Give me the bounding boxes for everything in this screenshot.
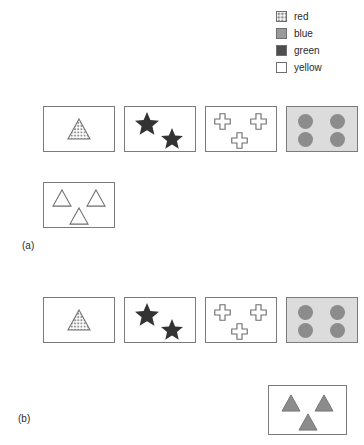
circle-blue-icon xyxy=(298,114,313,129)
green-swatch-solid-icon xyxy=(276,45,287,56)
triangle-yellow-icon xyxy=(86,189,106,207)
cross-yellow-icon xyxy=(231,132,248,149)
triangle-red-icon xyxy=(67,309,91,331)
color-legend: red blue green yellow xyxy=(276,9,364,77)
box-a-4 xyxy=(286,106,358,152)
circle-blue-icon xyxy=(330,114,345,129)
triangle-blue-icon xyxy=(298,413,318,431)
box-a-5 xyxy=(43,182,115,228)
legend-label-green: green xyxy=(294,45,320,56)
yellow-swatch-empty-icon xyxy=(276,62,287,73)
triangle-blue-icon xyxy=(281,394,301,412)
cross-yellow-icon xyxy=(231,323,248,340)
box-a-1 xyxy=(43,106,115,152)
legend-label-blue: blue xyxy=(294,28,313,39)
legend-item-red: red xyxy=(276,9,364,24)
cross-yellow-icon xyxy=(214,113,231,130)
circle-blue-icon xyxy=(298,323,313,338)
red-swatch-checkered-icon xyxy=(276,11,287,22)
blue-swatch-solid-icon xyxy=(276,28,287,39)
box-a-3 xyxy=(205,106,277,152)
circle-blue-icon xyxy=(330,323,345,338)
triangle-yellow-icon xyxy=(69,207,89,225)
circle-blue-icon xyxy=(330,305,345,320)
box-b-2 xyxy=(124,297,196,343)
legend-label-yellow: yellow xyxy=(294,62,322,73)
legend-item-blue: blue xyxy=(276,26,364,41)
legend-item-yellow: yellow xyxy=(276,60,364,75)
star-green-icon xyxy=(161,128,183,149)
star-green-icon xyxy=(135,112,159,135)
triangle-red-icon xyxy=(67,118,91,140)
triangle-blue-icon xyxy=(314,394,334,412)
box-b-1 xyxy=(43,297,115,343)
star-green-icon xyxy=(161,319,183,340)
panel-a-label: (a) xyxy=(22,240,34,251)
circle-blue-icon xyxy=(298,132,313,147)
box-b-5 xyxy=(268,385,347,435)
triangle-yellow-icon xyxy=(52,189,72,207)
star-green-icon xyxy=(135,303,159,326)
circle-blue-icon xyxy=(298,305,313,320)
cross-yellow-icon xyxy=(214,304,231,321)
cross-yellow-icon xyxy=(250,304,267,321)
cross-yellow-icon xyxy=(250,113,267,130)
box-b-3 xyxy=(205,297,277,343)
legend-label-red: red xyxy=(294,11,308,22)
panel-b-label: (b) xyxy=(18,413,30,424)
legend-item-green: green xyxy=(276,43,364,58)
circle-blue-icon xyxy=(330,132,345,147)
box-a-2 xyxy=(124,106,196,152)
box-b-4 xyxy=(286,297,358,343)
